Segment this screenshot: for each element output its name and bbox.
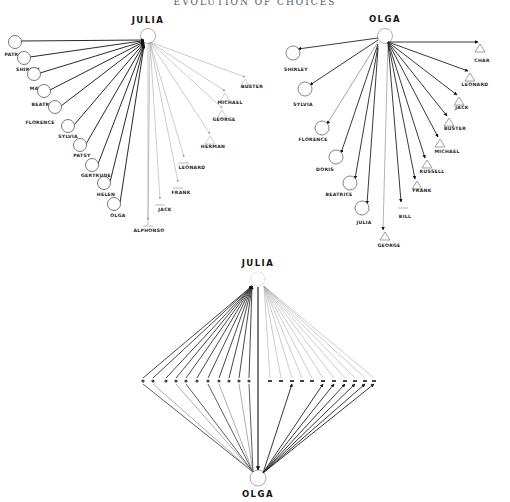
combined-member-node [353,380,357,382]
combined-member-node [372,380,376,382]
olga-boy-node [465,73,475,81]
olga-boy-label: BUSTER [444,126,466,131]
olga-boy-label: LEONARD [462,82,489,87]
olga-boy-label: CHAR [474,58,490,63]
olga-girl-label: FLORENCE [298,137,327,142]
olga-boy-node [475,44,485,52]
olga-node [378,29,393,44]
combined-member-node [300,380,304,382]
olga-girl-node [329,150,343,164]
julia-girl-label: HELEN [97,192,115,197]
combined-sociogram: JULIA OLGA [141,258,376,499]
julia-girl-node [28,68,41,81]
julia-boy-label: LEONARD [179,165,206,170]
julia-sociogram: JULIA PATRICESHIRLEYMARIABEATRICEFLORENC… [4,15,263,233]
olga-boy-label: GEORGE [377,243,400,248]
olga-boy-node [422,160,432,168]
figure-title: EVOLUTION OF CHOICES [174,0,337,7]
combined-member-node [343,380,347,382]
combined-member-node [206,379,209,382]
combined-bottom-label: OLGA [242,489,274,499]
julia-center-label: JULIA [131,15,165,25]
julia-boy-label: ALPHONSO [133,228,164,233]
combined-member-node [195,379,198,382]
olga-girl-node [343,176,357,190]
combined-member-node [141,379,144,382]
olga-boy-label: MICHAEL [434,149,459,154]
combined-member-node [227,379,230,382]
combined-member-node [321,380,325,382]
combined-member-node [310,380,314,382]
combined-member-node [174,379,177,382]
olga-girl-label: JULIA [355,220,371,225]
olga-girl-node [355,201,369,215]
olga-boy-node [435,139,445,147]
sociogram-figure: EVOLUTION OF CHOICES JULIA PATRICESHIRLE… [0,0,510,502]
olga-sociogram: OLGA SHIRLEYSYLVIAFLORENCEDORISBEATRICEJ… [284,14,490,248]
olga-boy-node [380,232,390,240]
julia-boy-label: GEORGE [212,117,235,122]
julia-girl-label: SYLVIA [58,134,78,139]
olga-girl-label: SHIRLEY [284,67,308,72]
julia-boy-label: BUSTER [241,84,263,89]
julia-girl-node [108,198,121,211]
combined-member-node [268,380,272,382]
combined-member-node [279,380,283,382]
combined-member-node [247,379,250,382]
julia-girl-label: FLORENCE [25,120,54,125]
julia-girl-label: OLGA [110,213,126,218]
julia-girl-node [9,36,22,49]
combined-member-node [363,380,367,382]
olga-girl-label: DORIS [316,167,334,172]
combined-member-node [332,380,336,382]
olga-boy-label: RUSSELL [420,169,445,174]
combined-member-node [184,379,187,382]
combined-member-node [151,379,154,382]
julia-girl-node [98,177,111,190]
combined-top-label: JULIA [241,258,275,268]
julia-boy-label: JACK [157,207,172,212]
olga-boy-label: FRANK [412,188,431,193]
olga-girl-label: SYLVIA [293,102,313,107]
olga-center-label: OLGA [369,14,401,24]
combined-julia-node [251,272,265,286]
julia-girl-node [38,85,51,98]
julia-boy-label: FRANK [171,190,190,195]
julia-girl-node [86,159,99,172]
julia-girl-node [74,139,87,152]
julia-boy-label: HERMAN [201,144,225,149]
julia-girl-label: PATSY [73,153,91,158]
julia-boy-node [205,136,215,144]
julia-boy-label: MICHAEL [217,100,242,105]
julia-girl-node [18,52,31,65]
olga-boy-node [454,97,464,105]
combined-member-node [164,379,167,382]
combined-member-node [237,379,240,382]
olga-girl-node [315,121,329,135]
olga-girl-node [298,82,312,96]
olga-boy-node [444,118,454,126]
olga-girl-node [286,46,300,60]
combined-member-node [290,380,294,382]
julia-girl-node [62,120,75,133]
combined-member-node [217,379,220,382]
olga-boy-label: BILL [399,214,411,219]
olga-boy-label: JACK [454,105,469,110]
olga-girl-label: BEATRICE [325,192,352,197]
julia-girl-node [49,101,62,114]
